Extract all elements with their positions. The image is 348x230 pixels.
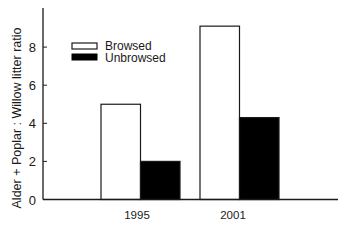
legend: Browsed Unbrowsed <box>72 39 166 65</box>
y-axis-label: Alder + Poplar : Willow litter ratio <box>10 27 24 208</box>
bar-unbrowsed-1995 <box>141 161 181 199</box>
bar-unbrowsed-2001 <box>240 118 280 200</box>
x-tick-label: 1995 <box>124 209 150 221</box>
bar-browsed-2001 <box>200 26 240 199</box>
y-tick-label: 4 <box>29 116 36 131</box>
x-axis-labels: 19952001 <box>124 209 246 221</box>
legend-swatch-browsed <box>72 43 97 49</box>
y-tick-label: 0 <box>29 193 36 208</box>
y-axis-ticks: 02468 <box>29 40 47 207</box>
legend-swatch-unbrowsed <box>72 54 97 60</box>
y-tick-label: 6 <box>29 78 36 93</box>
y-tick-label: 8 <box>29 40 36 55</box>
x-tick-label: 2001 <box>220 209 246 221</box>
y-tick-label: 2 <box>29 154 36 169</box>
bar-chart: Alder + Poplar : Willow litter ratio 024… <box>0 0 348 230</box>
bar-browsed-1995 <box>101 104 141 199</box>
legend-label-unbrowsed: Unbrowsed <box>105 51 166 65</box>
